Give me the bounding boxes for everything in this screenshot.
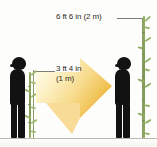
person-torso: [115, 69, 130, 105]
label-short-measure: 3 ft 4 in (1 m): [56, 64, 81, 84]
person-head: [12, 57, 26, 70]
person-leg-left: [116, 103, 122, 138]
bamboo-leaf: [145, 68, 150, 71]
bamboo-leaf: [145, 37, 152, 42]
ground-shadow: [0, 139, 157, 146]
bamboo-leaf: [138, 46, 143, 49]
person-nose: [115, 64, 119, 67]
person-leg-right: [123, 103, 130, 138]
bamboo-leaf: [145, 119, 152, 124]
person-leg-left: [11, 103, 17, 138]
person-leg-right: [18, 103, 25, 138]
bamboo-leaf: [145, 104, 150, 107]
label-tall-measure: 6 ft 6 in (2 m): [56, 12, 102, 22]
person-torso: [10, 69, 25, 105]
diagram-canvas: 6 ft 6 in (2 m) 3 ft 4 in (1 m): [0, 0, 157, 147]
bamboo-leaf: [145, 26, 150, 29]
bamboo-node: [142, 32, 145, 33]
bamboo-node: [142, 76, 145, 77]
child-silhouette-right: [113, 57, 137, 138]
person-head: [117, 57, 131, 70]
person-nose: [10, 64, 14, 67]
leader-line-tall: [117, 18, 143, 19]
child-silhouette-left: [8, 57, 32, 138]
label-short-measure-line2: (1 m): [56, 74, 81, 84]
bamboo-node: [142, 100, 145, 101]
label-short-measure-line1: 3 ft 4 in: [56, 64, 81, 73]
bamboo-leaf: [145, 83, 152, 88]
bamboo-node: [142, 54, 145, 55]
bamboo-leaf: [145, 132, 150, 135]
bamboo-tall: [143, 16, 153, 138]
bamboo-leaf: [144, 57, 151, 62]
bamboo-leaf: [144, 16, 151, 22]
